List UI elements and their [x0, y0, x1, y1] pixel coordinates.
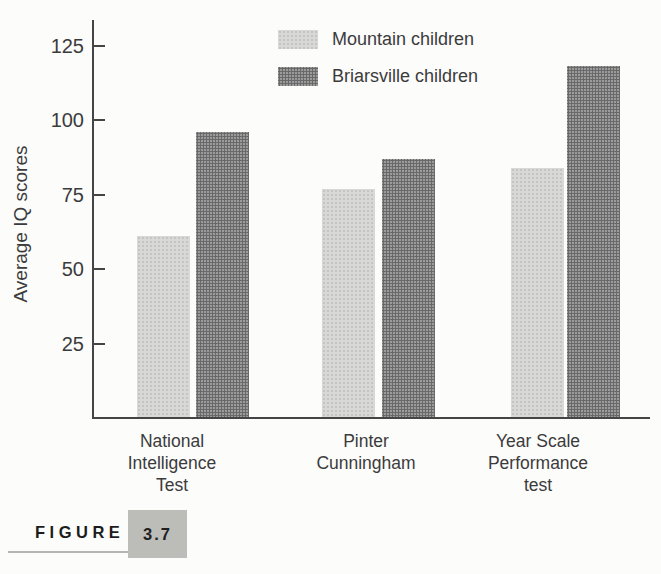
x-category-label-line: Year Scale — [433, 430, 643, 452]
x-category-label-line: Intelligence — [67, 452, 277, 474]
y-tick-label-100: 100 — [32, 110, 84, 130]
legend-swatch-mountain-children — [278, 30, 318, 49]
bar-mountain-group2 — [322, 189, 375, 417]
bar-briarsville-group2 — [382, 159, 435, 417]
x-category-label-line: National — [67, 430, 277, 452]
y-tick-label-125: 125 — [32, 36, 84, 56]
legend-item-briarsville: Briarsville children — [278, 66, 478, 87]
legend: Mountain children Briarsville children — [278, 29, 478, 103]
figure-number-badge: 3.7 — [128, 510, 187, 558]
y-tick-mark-125 — [94, 45, 105, 47]
y-axis-line — [92, 20, 94, 419]
y-tick-mark-25 — [94, 343, 105, 345]
legend-label-briarsville-children: Briarsville children — [332, 66, 478, 87]
x-category-label-line: Test — [67, 474, 277, 496]
figure-kicker: FIGURE — [35, 523, 124, 542]
legend-swatch-briarsville-children — [278, 67, 318, 86]
y-tick-mark-75 — [94, 194, 105, 196]
bar-mountain-group3 — [511, 168, 564, 417]
figure-rule — [8, 551, 128, 553]
x-axis-line — [92, 417, 650, 419]
y-tick-mark-100 — [94, 119, 105, 121]
y-tick-label-75: 75 — [32, 185, 84, 205]
y-axis-title: Average IQ scores — [10, 145, 32, 302]
y-tick-label-50: 50 — [32, 259, 84, 279]
x-category-label-line: test — [433, 474, 643, 496]
legend-label-mountain-children: Mountain children — [332, 29, 474, 50]
bar-briarsville-group3 — [567, 66, 620, 417]
bar-mountain-group1 — [137, 236, 190, 417]
y-tick-mark-50 — [94, 268, 105, 270]
legend-item-mountain: Mountain children — [278, 29, 478, 50]
figure-3-7-bar-chart: Average IQ scores 255075100125 NationalI… — [0, 0, 661, 574]
y-tick-label-25: 25 — [32, 334, 84, 354]
x-category-label-3: Year ScalePerformancetest — [433, 430, 643, 496]
x-category-label-line: Performance — [433, 452, 643, 474]
bar-briarsville-group1 — [196, 132, 249, 417]
x-category-label-1: NationalIntelligenceTest — [67, 430, 277, 496]
